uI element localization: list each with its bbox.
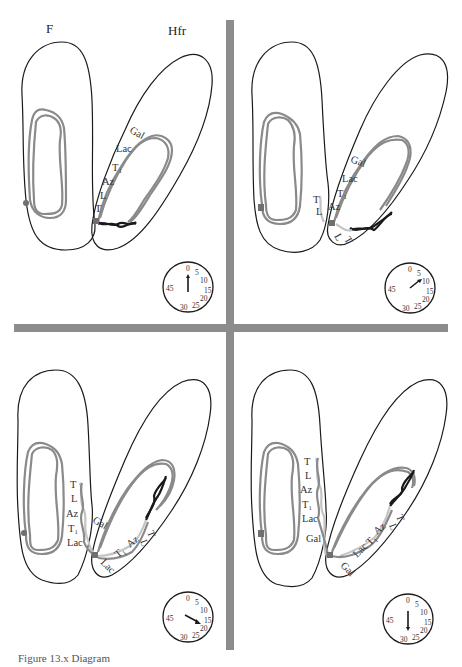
gene-t: T [95,203,102,214]
gene-l-exported: L [316,206,322,217]
transferred-gene-lac: Lac [302,513,318,524]
figure-caption: Figure 13.x Diagram [18,652,110,664]
transferred-gene-t: T [70,479,77,490]
svg-text:30: 30 [400,635,408,644]
gene-lac: Lac [116,143,132,154]
f-chromosome [21,443,64,554]
transferred-gene-l: L [71,493,77,504]
gene-t-exported: T [313,194,320,205]
svg-text:20: 20 [422,295,430,304]
svg-text:25: 25 [192,631,200,640]
svg-text:10: 10 [422,277,430,286]
svg-text:0: 0 [408,265,412,274]
panel-2: Gal Lac T₁ Az T L L T 0 5 10 15 20 25 30… [252,42,448,313]
svg-text:45: 45 [386,616,394,625]
svg-text:30: 30 [180,633,188,642]
svg-text:0: 0 [406,596,410,605]
svg-text:5: 5 [195,268,199,277]
svg-text:5: 5 [415,600,419,609]
gene-gal: Gal [339,560,358,579]
gene-lac: Lac [342,173,358,184]
svg-text:10: 10 [420,608,428,617]
transferred-gene-t: T [304,456,311,467]
svg-text:30: 30 [402,304,410,313]
svg-text:10: 10 [200,276,208,285]
f-cell-outline [251,370,326,586]
gene-az: Az [328,201,341,212]
transferred-gene-az: Az [66,508,79,519]
clock-panel-1: 0 5 10 15 20 25 30 45 [163,262,213,312]
f-origin-marker [258,204,264,211]
panel-3: T L Az T₁ Lac Gal T L Az T₁ Lac 0 5 10 1… [17,370,213,642]
hfr-origin-marker [329,220,335,226]
horizontal-divider [14,324,448,332]
hfr-chromosome [320,136,411,231]
svg-text:25: 25 [412,633,420,642]
gene-az: Az [102,176,115,187]
hfr-origin-marker [327,552,333,558]
svg-text:20: 20 [420,626,428,635]
panel-4: T L Az T₁ Lac Gal T L Az T₁ Lac Gal 0 5 … [251,370,447,644]
svg-text:5: 5 [417,269,421,278]
f-chromosome [258,113,302,224]
hfr-cell-outline [92,54,212,249]
conjugation-figure: F Hfr Gal Lac T₁ Az L T 0 5 10 [0,0,462,667]
f-origin-marker [23,200,29,206]
hfr-cell-outline [326,380,447,577]
f-cell-outline [22,42,95,250]
transferred-gene-gal: Gal [306,533,321,544]
svg-text:25: 25 [192,301,200,310]
clock-panel-4: 0 5 10 15 20 25 30 45 [383,594,433,644]
f-chromosome [258,443,300,554]
hfr-origin-marker [93,218,99,224]
hfr-cell-outline [92,380,211,577]
svg-text:20: 20 [200,294,208,303]
transferred-gene-t1: T₁ [302,499,312,510]
transferred-gene-l: L [305,470,311,481]
transferred-gene-t1: T₁ [68,523,78,534]
f-cell-header: F [46,21,53,36]
gene-t1: T₁ [112,162,122,173]
gene-l: L [100,190,106,201]
svg-text:5: 5 [195,598,199,607]
svg-text:25: 25 [414,302,422,311]
f-origin-marker [21,530,27,536]
f-chromosome [23,109,66,218]
svg-text:10: 10 [200,606,208,615]
panel-1: Gal Lac T₁ Az L T 0 5 10 15 20 25 30 45 [22,42,213,312]
f-origin-marker [258,530,264,537]
hfr-cell-header: Hfr [168,23,187,38]
svg-text:45: 45 [166,614,174,623]
clock-panel-2: 0 5 10 15 20 25 30 45 [385,263,435,313]
svg-text:45: 45 [388,285,396,294]
clock-panel-3: 0 5 10 15 20 25 30 45 [163,592,213,642]
svg-text:0: 0 [186,594,190,603]
svg-text:30: 30 [180,303,188,312]
gene-t1: T₁ [337,188,347,199]
vertical-divider [226,20,234,650]
svg-text:20: 20 [200,624,208,633]
svg-text:0: 0 [186,264,190,273]
transferred-gene-az: Az [300,484,313,495]
transferred-gene-lac: Lac [67,537,83,548]
svg-text:45: 45 [166,284,174,293]
hfr-origin-marker [92,552,98,558]
gene-gal: Gal [349,154,367,170]
